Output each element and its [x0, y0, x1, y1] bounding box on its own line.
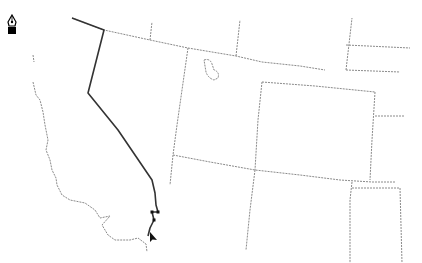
coastline-segment	[33, 82, 147, 252]
cursor-arrow-icon	[150, 232, 157, 242]
state-border-line	[350, 182, 352, 263]
vertex-handle[interactable]	[151, 211, 154, 214]
state-border-line	[352, 188, 402, 263]
state-border-line	[370, 92, 375, 180]
mouse-cursor-icon	[150, 232, 157, 242]
vertex-handle[interactable]	[153, 219, 156, 222]
state-border-line	[346, 70, 400, 72]
state-border-line	[255, 82, 262, 170]
state-border-line	[72, 18, 325, 70]
state-border-line	[346, 45, 410, 48]
state-border-line	[170, 48, 188, 185]
state-border-line	[173, 155, 395, 182]
state-border-line	[236, 20, 240, 56]
state-borders	[72, 18, 410, 263]
drawn-boundary-path[interactable]	[72, 18, 158, 236]
state-border-line	[246, 170, 255, 250]
lake-outline	[204, 60, 219, 81]
map-canvas[interactable]	[0, 0, 422, 263]
vertex-handle[interactable]	[157, 211, 160, 214]
state-border-line	[150, 22, 152, 40]
coastline-segment	[33, 55, 34, 62]
lake-outlines	[204, 60, 219, 81]
state-border-line	[262, 82, 375, 92]
state-border-line	[346, 18, 352, 70]
pen-tool-icon[interactable]	[5, 14, 19, 36]
